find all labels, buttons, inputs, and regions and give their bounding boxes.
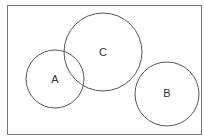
venn-diagram: A C B bbox=[0, 0, 204, 138]
label-a: A bbox=[51, 73, 59, 85]
label-b: B bbox=[163, 87, 170, 99]
universe-frame bbox=[8, 6, 202, 135]
label-c: C bbox=[99, 46, 107, 58]
